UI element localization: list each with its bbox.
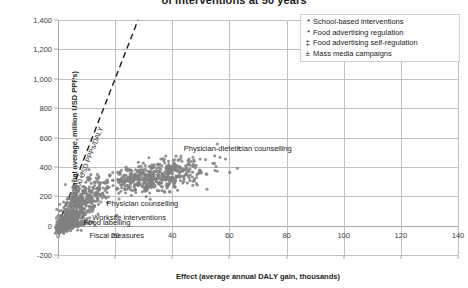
x-tick-mark xyxy=(343,255,344,259)
legend-label: Food advertising regulation xyxy=(313,28,403,39)
legend-label: School-based interventions xyxy=(313,17,403,28)
chart-legend: *School-based interventions*Food adverti… xyxy=(300,14,460,62)
cost-effectiveness-scatter-chart: of interventions at 50 years Cost (annua… xyxy=(0,0,468,288)
x-tick-mark xyxy=(458,255,459,259)
x-tick-mark xyxy=(400,255,401,259)
legend-label: Food advertising self-regulation xyxy=(313,38,418,49)
x-tick-mark xyxy=(115,255,116,259)
x-tick-mark xyxy=(286,255,287,259)
y-tick-label: 800 xyxy=(39,104,58,113)
legend-label: Mass media campaigns xyxy=(313,49,392,60)
y-tick-label: -200 xyxy=(37,251,58,260)
y-tick-label: 1,000 xyxy=(33,74,58,83)
x-tick-mark xyxy=(229,255,230,259)
gridline-horizontal xyxy=(58,255,458,256)
legend-row: *Food advertising regulation xyxy=(303,28,456,39)
cluster-label: Food labelling xyxy=(84,218,131,227)
chart-title: of interventions at 50 years xyxy=(0,0,468,6)
x-tick-mark xyxy=(172,255,173,259)
y-tick-label: 1,400 xyxy=(33,16,58,25)
cluster-label: Fiscal measures xyxy=(89,231,144,240)
y-tick-label: 1,200 xyxy=(33,45,58,54)
cluster-label: Physician counselling xyxy=(107,199,179,208)
y-tick-label: 200 xyxy=(39,192,58,201)
y-tick-label: 600 xyxy=(39,133,58,142)
legend-marker-icon: * xyxy=(303,28,310,39)
legend-marker-icon: ± xyxy=(303,49,310,60)
y-tick-label: 400 xyxy=(39,162,58,171)
legend-row: ±Mass media campaigns xyxy=(303,49,456,60)
legend-row: *School-based interventions xyxy=(303,17,456,28)
cluster-label: Physician-dietetician counselling xyxy=(184,144,292,153)
legend-row: ‡Food advertising self-regulation xyxy=(303,38,456,49)
legend-marker-icon: * xyxy=(303,17,310,28)
x-axis-title: Effect (average annual DALY gain, thousa… xyxy=(58,272,458,281)
x-tick-mark xyxy=(58,255,59,259)
legend-marker-icon: ‡ xyxy=(303,38,310,49)
